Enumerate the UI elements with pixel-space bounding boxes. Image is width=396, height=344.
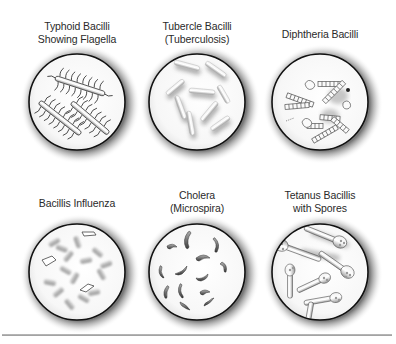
microscope-illustrations <box>0 0 396 344</box>
horizontal-divider <box>2 334 392 336</box>
